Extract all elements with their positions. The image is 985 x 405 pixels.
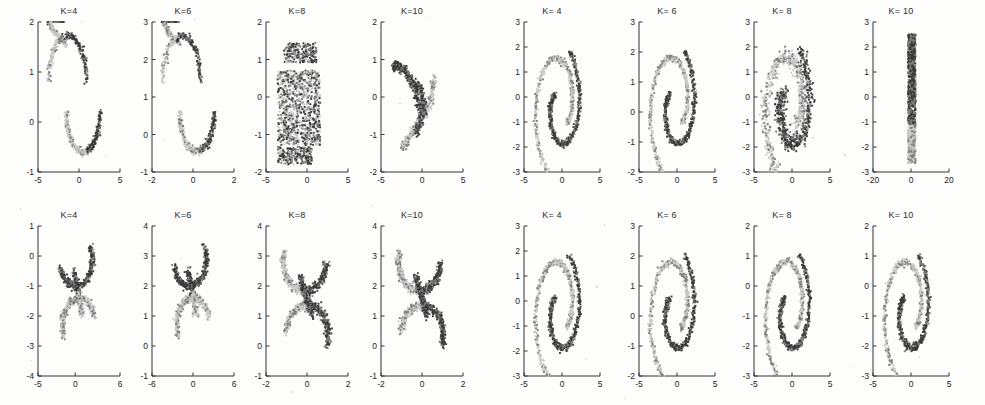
y-tick-label: -1 bbox=[512, 117, 520, 127]
y-tick-label: 2 bbox=[515, 42, 520, 52]
y-tick-label: 1 bbox=[143, 92, 148, 102]
y-tick-label: -1 bbox=[26, 167, 34, 177]
x-tick-label: -5 bbox=[635, 175, 643, 185]
scatter-points bbox=[763, 254, 812, 377]
plot-area: -2-10123-505 bbox=[609, 210, 725, 394]
y-tick-label: 0 bbox=[29, 251, 34, 261]
y-tick-label: -4 bbox=[26, 371, 34, 381]
plot-area: -3-2-10123-505 bbox=[494, 6, 610, 190]
y-tick-label: 0 bbox=[745, 281, 750, 291]
plot-area: -1012-505 bbox=[8, 6, 130, 190]
scatter-points bbox=[907, 33, 916, 164]
x-tick-label: -20 bbox=[867, 175, 880, 185]
y-tick-label: 1 bbox=[864, 67, 869, 77]
scan-speck bbox=[81, 21, 83, 22]
y-tick-label: -1 bbox=[627, 137, 635, 147]
y-tick-label: 0 bbox=[257, 341, 262, 351]
subplot-left-r1c2: K=8-101234-202 bbox=[236, 210, 358, 394]
plot-area: -2-10123-505 bbox=[609, 6, 725, 190]
y-tick-label: 1 bbox=[515, 271, 520, 281]
y-tick-label: -3 bbox=[861, 371, 869, 381]
x-tick-label: 0 bbox=[305, 175, 310, 185]
x-tick-label: -5 bbox=[262, 175, 270, 185]
y-tick-label: 2 bbox=[515, 246, 520, 256]
x-tick-label: 0 bbox=[305, 379, 310, 389]
x-tick-label: 0 bbox=[909, 175, 914, 185]
y-tick-label: -1 bbox=[742, 311, 750, 321]
y-tick-label: 2 bbox=[864, 221, 869, 231]
x-tick-label: -5 bbox=[34, 379, 42, 389]
y-tick-label: 2 bbox=[143, 55, 148, 65]
subplot-right-r1c0: K= 4-3-2-10123-505 bbox=[494, 210, 610, 394]
plot-area: -101234-202 bbox=[236, 210, 358, 394]
x-tick-label: 0 bbox=[909, 379, 914, 389]
two-moons-clustering-group: K=4-1012-505K=6-10123-202K=8-2-1012-505K… bbox=[0, 0, 492, 405]
y-tick-label: 2 bbox=[372, 17, 377, 27]
scan-speck bbox=[300, 55, 302, 57]
y-tick-label: 3 bbox=[515, 17, 520, 27]
plot-area: -3-2-10123-20020 bbox=[843, 6, 959, 190]
y-tick-label: 0 bbox=[864, 92, 869, 102]
subplot-right-r1c1: K= 6-2-10123-505 bbox=[609, 210, 725, 394]
x-tick-label: 2 bbox=[346, 379, 351, 389]
y-tick-label: -3 bbox=[512, 167, 520, 177]
plot-area: -10123-202 bbox=[122, 6, 244, 190]
x-tick-label: -2 bbox=[148, 175, 156, 185]
subplot-left-r0c0: K=4-1012-505 bbox=[8, 6, 130, 190]
x-tick-label: -5 bbox=[377, 175, 385, 185]
y-tick-label: 1 bbox=[745, 67, 750, 77]
subplot-left-r0c1: K=6-10123-202 bbox=[122, 6, 244, 190]
y-tick-label: -1 bbox=[140, 167, 148, 177]
x-tick-label: 2 bbox=[461, 379, 466, 389]
y-tick-label: 2 bbox=[745, 221, 750, 231]
y-tick-label: -1 bbox=[861, 117, 869, 127]
subplot-right-r0c2: K= 8-3-2-10123-505 bbox=[724, 6, 840, 190]
y-tick-label: 0 bbox=[143, 130, 148, 140]
plot-area: -2-1012-505 bbox=[236, 6, 358, 190]
y-tick-label: -1 bbox=[369, 130, 377, 140]
x-tick-label: -6 bbox=[148, 379, 156, 389]
y-tick-label: 4 bbox=[257, 221, 262, 231]
spiral-clustering-group: K= 4-3-2-10123-505K= 6-2-10123-505K= 8-3… bbox=[492, 0, 985, 405]
scatter-points bbox=[391, 60, 437, 151]
y-tick-label: 0 bbox=[515, 296, 520, 306]
plot-area: -101234-606 bbox=[122, 210, 244, 394]
y-tick-label: 3 bbox=[257, 251, 262, 261]
y-tick-label: -2 bbox=[742, 341, 750, 351]
y-tick-label: -1 bbox=[742, 117, 750, 127]
scan-speck bbox=[194, 18, 195, 20]
y-tick-label: -1 bbox=[369, 371, 377, 381]
subplot-right-r1c3: K= 10-3-2-1012-505 bbox=[843, 210, 959, 394]
scan-speck bbox=[292, 391, 293, 393]
x-tick-label: 5 bbox=[828, 175, 833, 185]
y-tick-label: 3 bbox=[630, 17, 635, 27]
scatter-points bbox=[160, 21, 217, 156]
x-tick-label: 5 bbox=[947, 379, 952, 389]
y-tick-label: 2 bbox=[630, 47, 635, 57]
y-tick-label: -2 bbox=[369, 167, 377, 177]
y-tick-label: 1 bbox=[257, 55, 262, 65]
y-tick-label: 1 bbox=[630, 281, 635, 291]
x-tick-label: 5 bbox=[713, 175, 718, 185]
y-tick-label: 3 bbox=[745, 17, 750, 27]
plot-area: -3-2-10123-505 bbox=[724, 6, 840, 190]
scan-speck bbox=[586, 358, 587, 360]
scatter-points bbox=[533, 254, 582, 377]
y-tick-label: 2 bbox=[745, 42, 750, 52]
scatter-points bbox=[648, 50, 698, 172]
x-tick-label: 0 bbox=[675, 379, 680, 389]
y-tick-label: -1 bbox=[26, 281, 34, 291]
scatter-points bbox=[171, 243, 211, 339]
x-tick-label: -5 bbox=[869, 379, 877, 389]
scatter-points bbox=[279, 250, 332, 349]
x-tick-label: 0 bbox=[420, 379, 425, 389]
y-tick-label: 3 bbox=[630, 221, 635, 231]
y-tick-label: 1 bbox=[515, 67, 520, 77]
y-tick-label: 1 bbox=[745, 251, 750, 261]
subplot-right-r1c2: K= 8-3-2-1012-505 bbox=[724, 210, 840, 394]
x-tick-label: 5 bbox=[713, 379, 718, 389]
y-tick-label: 3 bbox=[515, 221, 520, 231]
subplot-left-r1c1: K=6-101234-606 bbox=[122, 210, 244, 394]
x-tick-label: 0 bbox=[191, 379, 196, 389]
y-tick-label: 1 bbox=[257, 311, 262, 321]
